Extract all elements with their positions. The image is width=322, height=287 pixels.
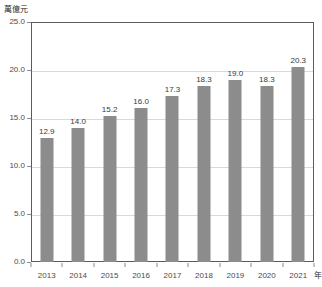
bar-value-label: 18.3	[196, 75, 212, 84]
bar-value-label: 12.9	[39, 127, 55, 136]
y-axis-tick-label: 0.0	[14, 258, 25, 266]
x-axis-tick-mark	[31, 263, 32, 267]
bar[interactable]	[292, 67, 305, 262]
bar[interactable]	[260, 86, 273, 262]
bar-value-label: 16.0	[133, 97, 149, 106]
bar-slot: 16.0	[125, 22, 156, 262]
x-axis-tick-mark	[125, 263, 126, 267]
y-axis-tick-label: 20.0	[9, 66, 25, 74]
x-axis-tick-mark	[282, 263, 283, 267]
bar[interactable]	[229, 80, 242, 262]
y-axis-tick-label: 5.0	[14, 210, 25, 218]
y-axis-tick-label: 25.0	[9, 18, 25, 26]
bar-value-label: 14.0	[70, 117, 86, 126]
x-axis: 201320142015201620172018201920202021	[31, 263, 314, 287]
x-axis-tick-mark	[188, 263, 189, 267]
bar-value-label: 20.3	[290, 56, 306, 65]
x-axis-tick-label: 2020	[258, 271, 276, 280]
bar-slot: 18.3	[188, 22, 219, 262]
bar-slot: 15.2	[94, 22, 125, 262]
y-axis: 0.05.010.015.020.025.0	[0, 0, 31, 287]
x-axis-unit-label: 年	[314, 271, 322, 280]
bar[interactable]	[40, 138, 53, 262]
bar[interactable]	[166, 96, 179, 262]
x-axis-tick-label: 2014	[69, 271, 87, 280]
bar[interactable]	[135, 108, 148, 262]
bar[interactable]	[197, 86, 210, 262]
x-axis-tick-label: 2015	[101, 271, 119, 280]
x-axis-tick-label: 2017	[164, 271, 182, 280]
bar[interactable]	[103, 116, 116, 262]
x-axis-tick-label: 2021	[289, 271, 307, 280]
y-axis-tick-label: 10.0	[9, 162, 25, 170]
x-axis-tick-mark	[219, 263, 220, 267]
x-axis-tick-mark	[156, 263, 157, 267]
bar-value-label: 15.2	[102, 105, 118, 114]
x-axis-tick-mark	[62, 263, 63, 267]
x-axis-tick-mark	[314, 263, 315, 267]
y-axis-tick-label: 15.0	[9, 114, 25, 122]
bar-value-label: 19.0	[228, 69, 244, 78]
bar-series: 12.914.015.216.017.318.319.018.320.3	[31, 22, 314, 262]
bar-slot: 20.3	[283, 22, 314, 262]
bar-slot: 19.0	[220, 22, 251, 262]
bar-value-label: 17.3	[165, 85, 181, 94]
bar[interactable]	[72, 128, 85, 262]
x-axis-tick-label: 2016	[132, 271, 150, 280]
bar-slot: 12.9	[31, 22, 62, 262]
x-axis-tick-label: 2019	[226, 271, 244, 280]
bar-chart: 萬億元 0.05.010.015.020.025.0 12.914.015.21…	[0, 0, 322, 287]
x-axis-tick-mark	[93, 263, 94, 267]
bar-value-label: 18.3	[259, 75, 275, 84]
x-axis-tick-label: 2018	[195, 271, 213, 280]
bar-slot: 18.3	[251, 22, 282, 262]
x-axis-tick-mark	[251, 263, 252, 267]
x-axis-tick-label: 2013	[38, 271, 56, 280]
bar-slot: 14.0	[62, 22, 93, 262]
bar-slot: 17.3	[157, 22, 188, 262]
